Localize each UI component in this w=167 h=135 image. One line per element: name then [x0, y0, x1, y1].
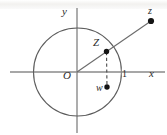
ray-origin-to-z	[77, 21, 151, 72]
x-axis-label: x	[149, 68, 154, 79]
y-axis-label: y	[62, 6, 67, 17]
unit-tick-label: 1	[122, 69, 127, 79]
point-w-label: w	[96, 83, 103, 93]
point-w-marker	[104, 84, 109, 89]
point-Z-inner-marker	[104, 49, 109, 54]
figure-canvas	[0, 0, 167, 135]
complex-plane-figure: y x O 1 z Z w	[0, 0, 167, 135]
point-Z-inner-label: Z	[93, 37, 99, 48]
point-z-outer-label: z	[148, 6, 152, 16]
dashed-projection-line	[107, 52, 108, 87]
point-z-outer-marker	[148, 18, 154, 24]
origin-label: O	[63, 70, 71, 81]
